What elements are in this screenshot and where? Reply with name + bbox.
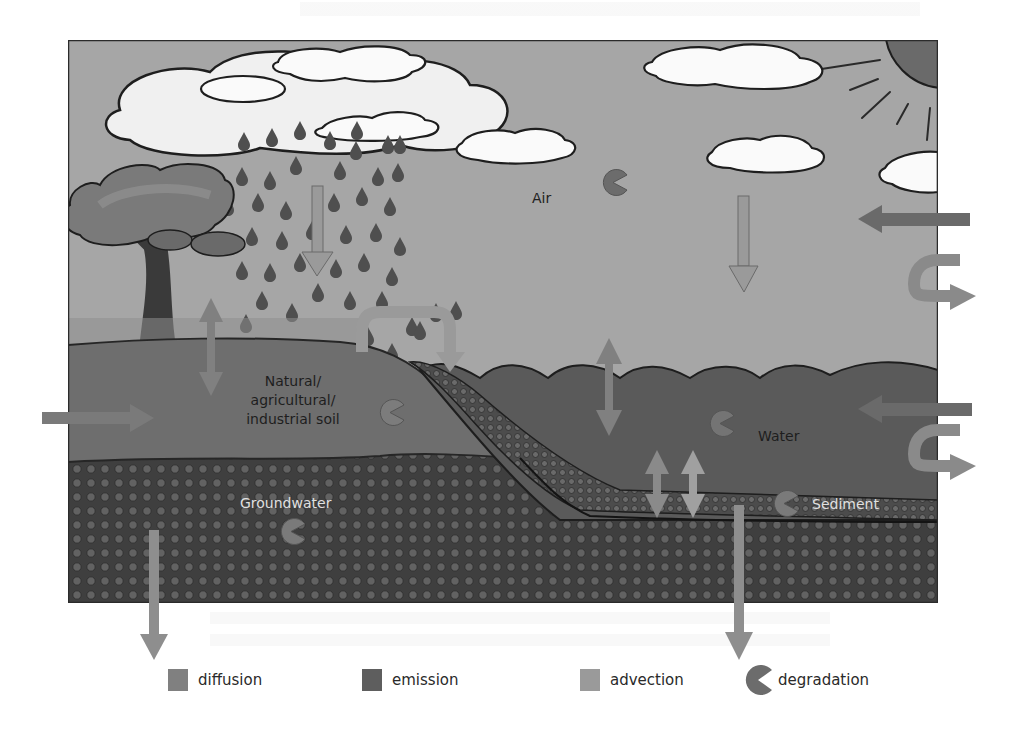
emission-swatch-icon: [362, 669, 382, 691]
soil-label: Natural/ agricultural/ industrial soil: [238, 372, 348, 429]
environmental-fate-diagram: [0, 0, 1018, 745]
groundwater-label: Groundwater: [240, 494, 331, 513]
legend-label: advection: [610, 671, 684, 689]
diffusion-swatch-icon: [168, 669, 188, 691]
legend-label: diffusion: [198, 671, 262, 689]
soil-label-line-1: Natural/: [238, 372, 348, 391]
cloud: [201, 76, 285, 102]
air-label: Air: [532, 189, 551, 208]
water-label: Water: [758, 427, 799, 446]
advection-arrow-water-outflow-head: [950, 454, 976, 480]
cloud: [273, 46, 425, 81]
sediment-label: Sediment: [812, 495, 879, 514]
legend-item-degradation: degradation: [744, 662, 869, 698]
soil-label-line-2: agricultural/: [238, 391, 348, 410]
pacman-icon: [744, 662, 776, 698]
legend-label: degradation: [778, 671, 869, 689]
advection-swatch-icon: [580, 669, 600, 691]
cloud: [707, 136, 824, 173]
advection-arrow-air-outflow-head: [950, 284, 976, 310]
legend-item-emission: emission: [362, 662, 459, 698]
legend-item-advection: advection: [580, 662, 684, 698]
legend: diffusion emission advection degradation: [0, 662, 1018, 702]
soil-label-line-3: industrial soil: [238, 410, 348, 429]
legend-label: emission: [392, 671, 459, 689]
cloud: [457, 129, 576, 163]
legend-item-diffusion: diffusion: [168, 662, 262, 698]
